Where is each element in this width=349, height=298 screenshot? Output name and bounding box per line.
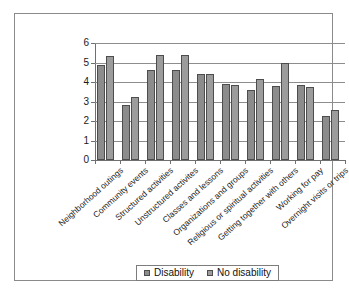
- y-axis-tick-label: 3: [83, 97, 89, 107]
- bar-group: [270, 43, 295, 160]
- y-axis-tick-label: 0: [83, 155, 89, 165]
- bar: [256, 79, 264, 160]
- x-axis-tick: [345, 160, 346, 164]
- bar: [272, 86, 280, 160]
- plot-area: 0123456: [95, 43, 345, 160]
- y-axis-tick-label: 5: [83, 58, 89, 68]
- bar: [172, 70, 180, 160]
- x-axis-tick: [295, 160, 296, 164]
- x-axis-tick: [270, 160, 271, 164]
- bar-group: [245, 43, 270, 160]
- y-axis-tick-label: 1: [83, 136, 89, 146]
- bar-group: [295, 43, 320, 160]
- bar: [231, 85, 239, 160]
- bar: [147, 70, 155, 160]
- x-axis-tick: [195, 160, 196, 164]
- x-axis-tick: [320, 160, 321, 164]
- y-axis-tick-label: 6: [83, 38, 89, 48]
- bar: [306, 87, 314, 160]
- x-axis-tick: [120, 160, 121, 164]
- legend-label: No disability: [217, 268, 271, 278]
- y-axis-tick-label: 2: [83, 116, 89, 126]
- bar-group: [95, 43, 120, 160]
- x-axis-tick: [220, 160, 221, 164]
- bar: [206, 74, 214, 160]
- bar: [297, 85, 305, 160]
- legend-swatch-icon: [207, 270, 213, 276]
- bar-group: [170, 43, 195, 160]
- x-axis-tick: [245, 160, 246, 164]
- bar-group: [120, 43, 145, 160]
- bar: [247, 90, 255, 160]
- bar: [181, 55, 189, 160]
- chart-frame: 0123456 Neighborhood outingsCommunity ev…: [14, 13, 333, 281]
- bar-group: [220, 43, 245, 160]
- bar-group: [320, 43, 345, 160]
- bar: [97, 65, 105, 160]
- chart-legend: DisabilityNo disability: [136, 265, 279, 281]
- bar: [331, 110, 339, 160]
- bar: [281, 63, 289, 160]
- bar: [222, 84, 230, 160]
- legend-label: Disability: [154, 268, 194, 278]
- bar: [322, 116, 330, 160]
- y-axis-tick-label: 4: [83, 77, 89, 87]
- bar: [106, 56, 114, 160]
- bar-group: [145, 43, 170, 160]
- bar: [197, 74, 205, 160]
- bar: [156, 55, 164, 160]
- x-axis-tick: [145, 160, 146, 164]
- legend-item: Disability: [144, 268, 194, 278]
- bar: [122, 105, 130, 160]
- x-axis-tick: [170, 160, 171, 164]
- legend-swatch-icon: [144, 270, 150, 276]
- bar: [131, 97, 139, 160]
- legend-item: No disability: [207, 268, 271, 278]
- x-axis-tick: [95, 160, 96, 164]
- bar-group: [195, 43, 220, 160]
